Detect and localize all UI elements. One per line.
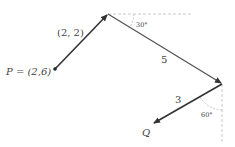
point-p-label: P = (2,6) bbox=[5, 66, 51, 77]
point-p bbox=[53, 67, 57, 71]
angle-arc-60 bbox=[200, 97, 222, 110]
vector-ab-label: 5 bbox=[161, 54, 167, 65]
vector-bq-label: 3 bbox=[175, 94, 181, 105]
vector-diagram: P = (2,6) (2, 2) 5 3 30° 60° Q bbox=[0, 0, 235, 147]
vector-pa-label: (2, 2) bbox=[57, 27, 84, 38]
vector-a-to-b bbox=[108, 14, 221, 83]
angle-60-label: 60° bbox=[201, 111, 213, 119]
angle-30-label: 30° bbox=[136, 21, 148, 29]
point-q-label: Q bbox=[142, 127, 150, 138]
angle-arc-30 bbox=[130, 14, 134, 27]
vector-p-to-a bbox=[55, 15, 107, 69]
